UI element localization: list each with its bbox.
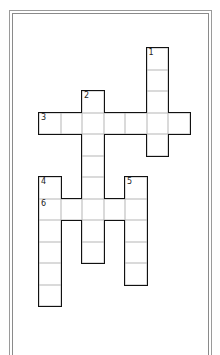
crossword-cell-fill bbox=[125, 113, 147, 135]
crossword-cell-fill: 3 bbox=[39, 113, 61, 135]
crossword-cell-fill bbox=[39, 242, 61, 264]
crossword-cell-fill bbox=[39, 220, 61, 242]
crossword-cell-fill bbox=[104, 113, 126, 135]
clue-number: 2 bbox=[84, 91, 89, 100]
crossword-cell-fill bbox=[82, 113, 104, 135]
crossword-cell-fill bbox=[125, 220, 147, 242]
crossword-cell-fill bbox=[82, 242, 104, 264]
crossword-cell-fill bbox=[125, 242, 147, 264]
crossword-cell-fill: 4 bbox=[39, 177, 61, 199]
crossword-cell-fill bbox=[125, 199, 147, 221]
crossword-cell-fill: 6 bbox=[39, 199, 61, 221]
crossword-cell-fill bbox=[125, 263, 147, 285]
clue-number: 5 bbox=[127, 177, 132, 186]
crossword-cell-fill: 2 bbox=[82, 91, 104, 113]
crossword-cell-fill bbox=[82, 134, 104, 156]
clue-number: 6 bbox=[41, 199, 46, 208]
crossword-cell-fill bbox=[82, 199, 104, 221]
clue-number: 4 bbox=[41, 177, 46, 186]
crossword-cell-fill bbox=[61, 199, 83, 221]
clue-number: 1 bbox=[149, 48, 154, 57]
crossword-cell-fill bbox=[104, 199, 126, 221]
crossword-cell-fill bbox=[82, 220, 104, 242]
crossword-cell-fill bbox=[39, 263, 61, 285]
crossword-cell-fill bbox=[39, 285, 61, 307]
crossword-cell-fill bbox=[147, 134, 169, 156]
crossword-cell-fill bbox=[61, 113, 83, 135]
crossword-cell-fill: 5 bbox=[125, 177, 147, 199]
crossword-cell-fill bbox=[147, 91, 169, 113]
crossword-cell-fill bbox=[82, 177, 104, 199]
crossword-cell-fill: 1 bbox=[147, 48, 169, 70]
crossword-cell-fill bbox=[147, 70, 169, 92]
clue-number: 3 bbox=[41, 113, 46, 122]
crossword-cell-fill bbox=[168, 113, 190, 135]
crossword-cell-fill bbox=[147, 113, 169, 135]
crossword-cell-fill bbox=[82, 156, 104, 178]
